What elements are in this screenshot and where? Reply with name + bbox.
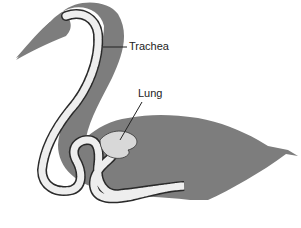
trachea-label: Trachea [129,41,169,52]
swan-trachea-diagram: Trachea Lung [0,0,301,228]
swan-illustration [0,0,301,228]
eye [40,17,44,21]
lung-label: Lung [138,88,162,99]
